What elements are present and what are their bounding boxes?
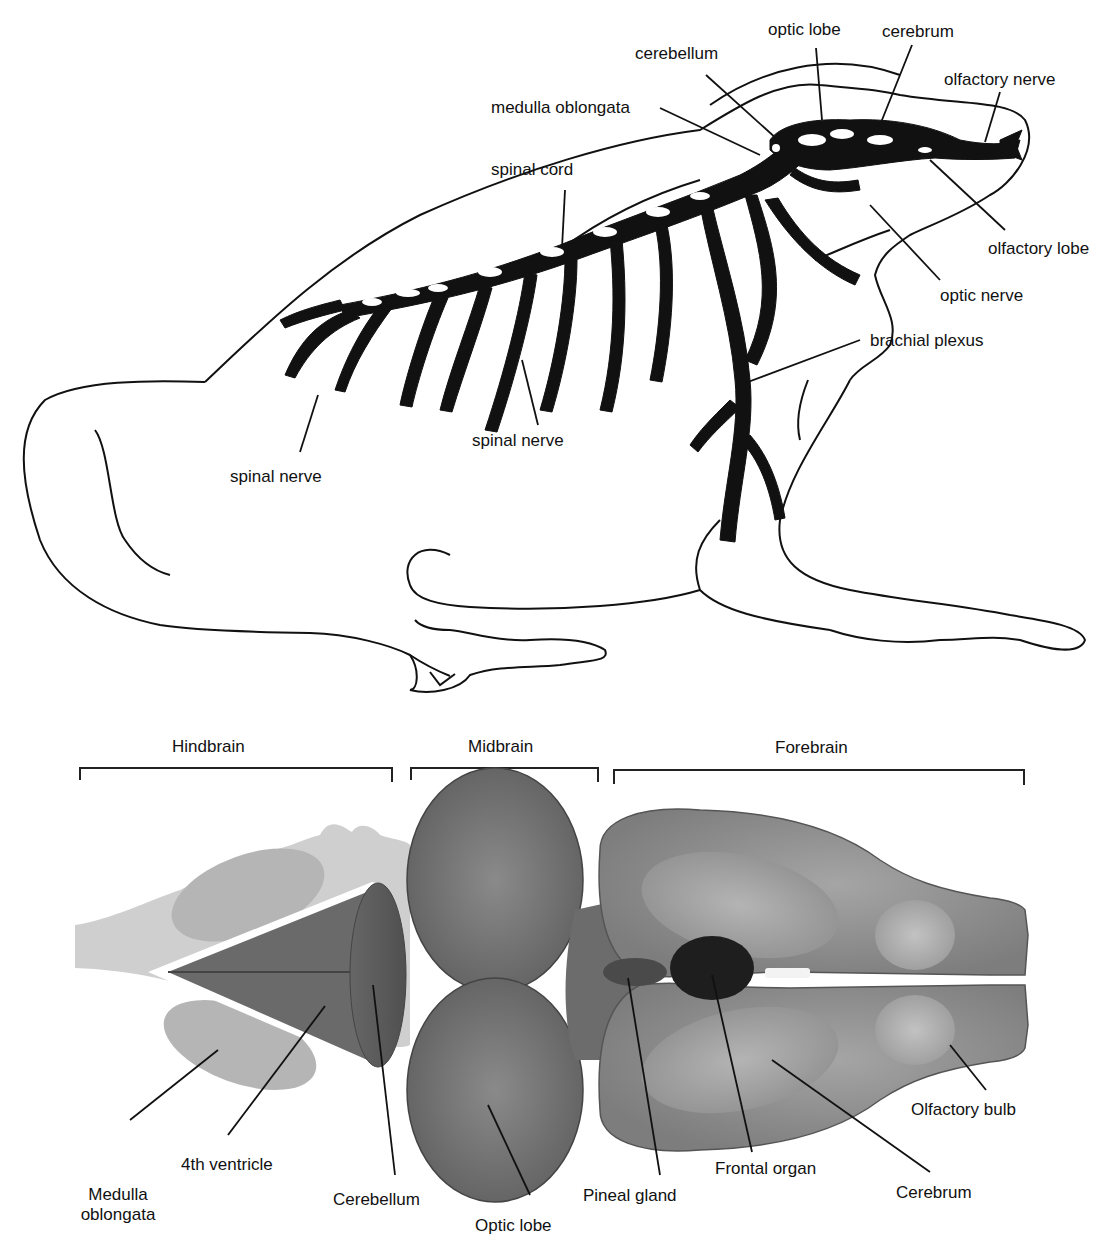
label-medulla-line1: Medulla	[68, 1185, 168, 1205]
region-forebrain: Forebrain	[775, 738, 848, 758]
label-optic-lobe: optic lobe	[768, 20, 841, 40]
region-brackets	[80, 768, 1024, 785]
label-cerebrum-brain: Cerebrum	[896, 1183, 972, 1203]
label-medulla-oblongata-brain: Medulla oblongata	[68, 1185, 168, 1225]
diagram-graphics	[0, 0, 1117, 1248]
label-spinal-nerve-left: spinal nerve	[230, 467, 322, 487]
label-medulla-line2: oblongata	[68, 1205, 168, 1225]
olfactory-bulb-upper	[875, 900, 955, 970]
label-medulla-oblongata: medulla oblongata	[491, 98, 630, 118]
label-spinal-cord: spinal cord	[491, 160, 573, 180]
label-cerebrum: cerebrum	[882, 22, 954, 42]
label-brachial-plexus: brachial plexus	[870, 331, 983, 351]
label-cerebellum: cerebellum	[635, 44, 718, 64]
label-optic-nerve: optic nerve	[940, 286, 1023, 306]
olfactory-bulb-lower	[875, 995, 955, 1065]
region-midbrain: Midbrain	[468, 737, 533, 757]
region-hindbrain: Hindbrain	[172, 737, 245, 757]
label-cerebellum-brain: Cerebellum	[333, 1190, 420, 1210]
optic-lobe-upper	[407, 768, 583, 992]
label-frontal-organ: Frontal organ	[715, 1159, 816, 1179]
label-optic-lobe-brain: Optic lobe	[475, 1216, 552, 1236]
optic-lobe-lower	[407, 978, 583, 1202]
label-pineal-gland: Pineal gland	[583, 1186, 677, 1206]
label-olfactory-bulb: Olfactory bulb	[911, 1100, 1016, 1120]
label-spinal-nerve-middle: spinal nerve	[472, 431, 564, 451]
label-olfactory-nerve: olfactory nerve	[944, 70, 1056, 90]
cerebellum-shape	[350, 883, 406, 1067]
diagram-canvas: optic lobe cerebrum cerebellum olfactory…	[0, 0, 1117, 1248]
frontal-organ-shape	[670, 936, 754, 1000]
label-fourth-ventricle: 4th ventricle	[181, 1155, 273, 1175]
pineal-gland-shape	[603, 958, 667, 986]
label-olfactory-lobe: olfactory lobe	[988, 239, 1089, 259]
